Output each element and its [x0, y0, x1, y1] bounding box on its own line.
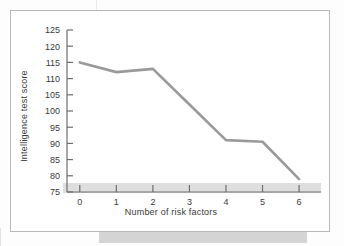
x-tick-label: 1 — [114, 197, 119, 207]
y-tick-label: 110 — [46, 74, 60, 84]
x-tick-label: 4 — [223, 197, 228, 207]
y-tick-label: 115 — [46, 58, 60, 68]
y-axis-title: Intelligence test score — [19, 46, 29, 186]
x-tick-label: 2 — [150, 197, 155, 207]
y-tick-label: 125 — [45, 25, 60, 35]
x-axis-title: Number of risk factors — [11, 207, 331, 217]
y-tick-label: 80 — [50, 171, 60, 181]
x-tick-label: 0 — [77, 197, 82, 207]
y-tick-label: 95 — [50, 123, 60, 133]
y-tick-label: 90 — [50, 139, 60, 149]
plot-area: 7580859095100105110115120125 0123456 Num… — [11, 11, 331, 233]
figure-frame: 7580859095100105110115120125 0123456 Num… — [10, 10, 330, 232]
data-series-line — [80, 62, 299, 179]
y-tick-label: 85 — [50, 155, 60, 165]
y-tick-label: 120 — [45, 42, 60, 52]
y-axis-ticks — [67, 30, 73, 192]
x-tick-label: 5 — [260, 197, 265, 207]
y-tick-label: 100 — [45, 106, 60, 116]
x-tick-label: 6 — [297, 197, 302, 207]
y-tick-label: 75 — [50, 187, 60, 197]
x-tick-label: 3 — [187, 197, 192, 207]
y-axis-tick-labels: 7580859095100105110115120125 — [45, 25, 60, 197]
scan-artifact-left-rule — [0, 228, 1, 246]
line-chart: 7580859095100105110115120125 0123456 — [11, 11, 331, 233]
x-axis-tick-labels: 0123456 — [77, 197, 301, 207]
y-tick-label: 105 — [45, 90, 60, 100]
